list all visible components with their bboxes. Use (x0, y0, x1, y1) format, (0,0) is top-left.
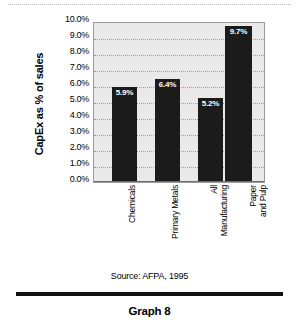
y-axis-title: CapEx as % of sales (33, 24, 45, 184)
category-label-all-manufacturing: All Manufacturing (210, 185, 229, 265)
category-label-line: Chemicals (127, 185, 137, 223)
bar-value-label: 5.9% (116, 89, 133, 97)
bar-all-manufacturing[interactable]: 5.2% (198, 98, 223, 182)
category-label-line: and Pulp (259, 185, 269, 265)
plot-area: 5.9% 6.4% 5.2% 9.7% (93, 22, 265, 183)
y-axis-tick-labels: 10.0% 9.0% 8.0% 7.0% 6.0% 5.0% 4.0% 3.0%… (50, 15, 89, 190)
category-label-line: Paper (248, 185, 258, 207)
bar-value-label: 9.7% (230, 28, 247, 36)
bar-value-label: 5.2% (202, 100, 219, 108)
source-note: Source: AFPA, 1995 (0, 271, 299, 281)
x-axis-category-labels: Chemicals Primary Metals All Manufacturi… (93, 185, 265, 265)
category-label-line: All (209, 185, 219, 194)
y-tick-label: 7.0% (50, 63, 89, 72)
bar-chemicals[interactable]: 5.9% (112, 87, 137, 182)
y-tick-label: 9.0% (50, 31, 89, 40)
category-label-line: Primary Metals (170, 185, 180, 239)
category-label-paper-and-pulp: Paper and Pulp (249, 185, 268, 265)
y-tick-label: 1.0% (50, 159, 89, 168)
bar-paper-and-pulp[interactable]: 9.7% (225, 26, 252, 182)
category-label-chemicals: Chemicals (128, 185, 138, 265)
footer-divider (16, 292, 283, 296)
y-tick-label: 8.0% (50, 47, 89, 56)
category-label-primary-metals: Primary Metals (171, 185, 181, 265)
figure-caption: Graph 8 (0, 305, 299, 317)
bar-primary-metals[interactable]: 6.4% (155, 79, 180, 182)
category-label-line: Manufacturing (220, 185, 230, 265)
bar-series: 5.9% 6.4% 5.2% 9.7% (94, 23, 264, 182)
bar-value-label: 6.4% (159, 81, 176, 89)
x-axis-line (94, 181, 264, 182)
y-tick-label: 5.0% (50, 95, 89, 104)
y-tick-label: 3.0% (50, 127, 89, 136)
y-tick-label: 4.0% (50, 111, 89, 120)
y-tick-label: 6.0% (50, 79, 89, 88)
y-tick-label: 0.0% (50, 175, 89, 184)
y-tick-label: 10.0% (50, 15, 89, 24)
y-tick-label: 2.0% (50, 143, 89, 152)
graph-8-figure: CapEx as % of sales 10.0% 9.0% 8.0% 7.0%… (0, 0, 299, 330)
